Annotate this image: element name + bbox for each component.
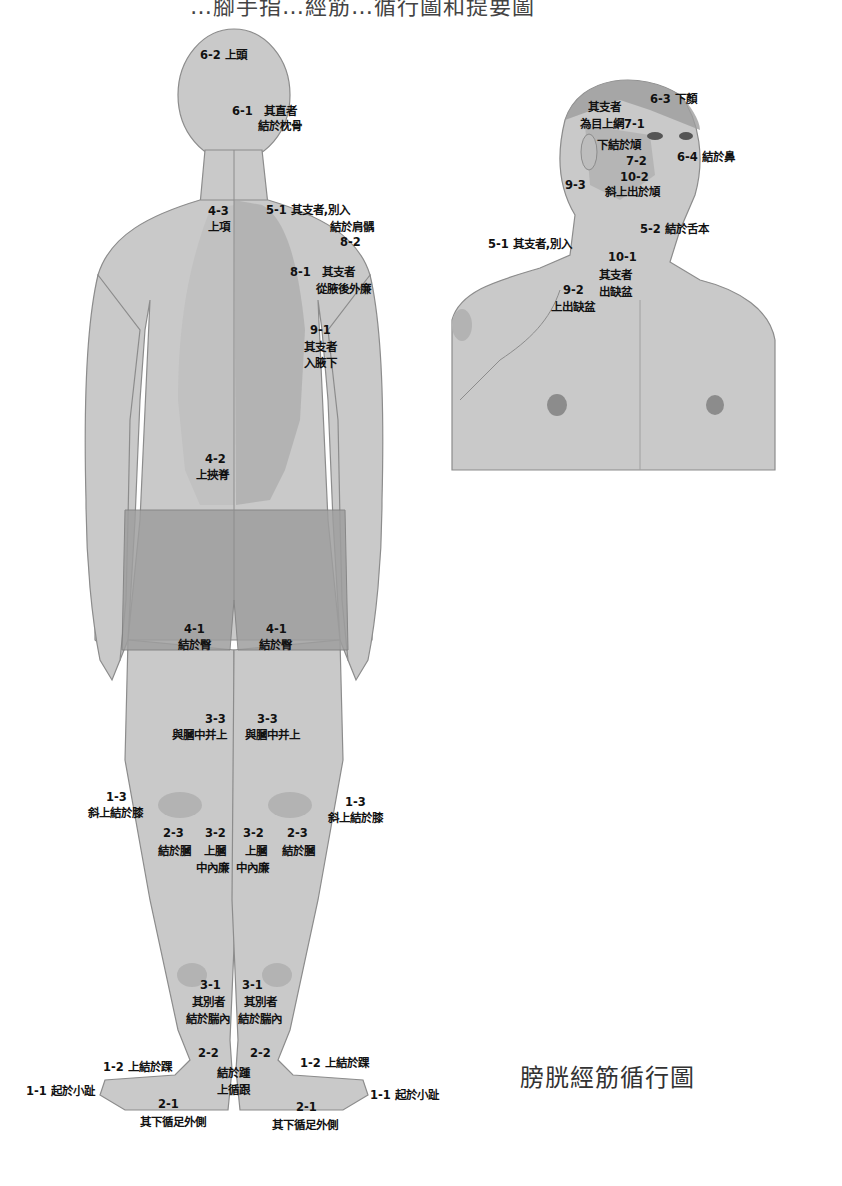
label-2-2-left: 2-2	[198, 1046, 219, 1061]
label-2-3-right-text: 結於膕	[282, 844, 315, 859]
label-2-3-left-text: 結於膕	[158, 844, 191, 859]
label-3-1-right-text2: 結於腨內	[238, 1012, 282, 1027]
label-2-1-right-text: 其下循足外側	[272, 1118, 338, 1133]
label-8-1-text: 從腋後外廉	[316, 282, 371, 297]
label-3-2-left-text2: 中內廉	[196, 861, 229, 876]
label-10-2: 10-2	[620, 170, 649, 185]
front-bust-figure	[0, 0, 842, 1186]
label-4-3: 4-3	[208, 204, 229, 219]
label-2-2-right: 2-2	[250, 1046, 271, 1061]
label-10-2-text: 斜上出於頄	[605, 185, 660, 200]
label-4-3-text: 上項	[208, 220, 230, 235]
label-1-3-left: 1-3	[106, 790, 127, 805]
label-7-1-text: 其支者	[588, 100, 621, 115]
label-4-1-right-text: 結於臀	[259, 638, 292, 653]
label-1-2-right: 1-2 上結於踝	[300, 1056, 369, 1071]
label-6-4: 6-4 結於鼻	[677, 150, 735, 165]
label-9-3: 9-3	[565, 178, 586, 193]
label-4-1-left: 4-1	[184, 622, 205, 637]
label-1-1-right: 1-1 起於小趾	[370, 1088, 439, 1103]
label-1-3-right: 1-3	[345, 795, 366, 810]
label-8-2: 8-2	[340, 235, 361, 250]
label-4-2: 4-2	[205, 452, 226, 467]
label-1-1-left: 1-1 起於小趾	[26, 1084, 95, 1099]
label-4-1-right: 4-1	[266, 622, 287, 637]
label-9-1-text2: 入腋下	[304, 356, 337, 371]
label-2-2-text2: 上循跟	[217, 1083, 250, 1098]
label-5-1-front: 5-1 其支者,別入	[488, 237, 572, 252]
label-7-2-text: 下結於頄	[597, 138, 641, 153]
label-6-3: 6-3 下顏	[650, 92, 697, 107]
label-7-2: 7-2	[626, 154, 647, 169]
label-5-1: 5-1 其支者,別入	[266, 203, 350, 218]
label-10-1-text2: 出缺盆	[599, 285, 632, 300]
label-3-1-right: 3-1	[242, 978, 263, 993]
label-3-3-left: 3-3	[205, 712, 226, 727]
label-3-1-right-text1: 其別者	[244, 995, 277, 1010]
label-3-2-right-text2: 中內廉	[236, 861, 269, 876]
label-1-3-right-text: 斜上結於膝	[328, 811, 383, 826]
label-9-2-text: 上出缺盆	[551, 300, 595, 315]
label-3-1-left-text1: 其別者	[192, 995, 225, 1010]
label-6-1: 6-1 其直者	[232, 104, 297, 119]
label-2-1-left: 2-1	[158, 1097, 179, 1112]
label-10-1-text1: 其支者	[599, 268, 632, 283]
label-6-1-text: 結於枕骨	[258, 119, 302, 134]
label-2-2-text1: 結於踵	[217, 1066, 250, 1081]
label-10-1: 10-1	[608, 250, 637, 265]
label-2-1-right: 2-1	[296, 1100, 317, 1115]
label-9-1: 9-1	[310, 323, 331, 338]
label-5-1-text: 結於肩髃	[330, 220, 374, 235]
label-1-2-left: 1-2 上結於踝	[103, 1060, 172, 1075]
label-9-2: 9-2	[563, 283, 584, 298]
label-5-2: 5-2 結於舌本	[640, 222, 709, 237]
label-9-1-text1: 其支者	[304, 340, 337, 355]
label-3-2-left-text1: 上膕	[204, 844, 226, 859]
label-4-1-left-text: 結於臀	[178, 638, 211, 653]
label-8-1: 8-1 其支者	[290, 265, 355, 280]
label-2-3-right: 2-3	[287, 826, 308, 841]
label-3-2-left: 3-2	[205, 826, 226, 841]
label-4-2-text: 上挾脊	[196, 468, 229, 483]
label-3-1-left: 3-1	[200, 978, 221, 993]
figure-caption: 膀胱經筋循行圖	[520, 1058, 695, 1093]
label-6-2: 6-2 上頭	[200, 48, 247, 63]
label-2-3-left: 2-3	[163, 826, 184, 841]
label-3-3-left-text: 與膕中并上	[172, 728, 227, 743]
label-2-1-left-text: 其下循足外側	[140, 1115, 206, 1130]
label-3-3-right-text: 與膕中并上	[245, 728, 300, 743]
label-3-2-right: 3-2	[243, 826, 264, 841]
label-7-1: 為目上網7-1	[580, 117, 645, 132]
label-3-3-right: 3-3	[257, 712, 278, 727]
label-3-2-right-text1: 上膕	[245, 844, 267, 859]
label-3-1-left-text2: 結於腨內	[186, 1012, 230, 1027]
label-1-3-left-text: 斜上結於膝	[88, 806, 143, 821]
